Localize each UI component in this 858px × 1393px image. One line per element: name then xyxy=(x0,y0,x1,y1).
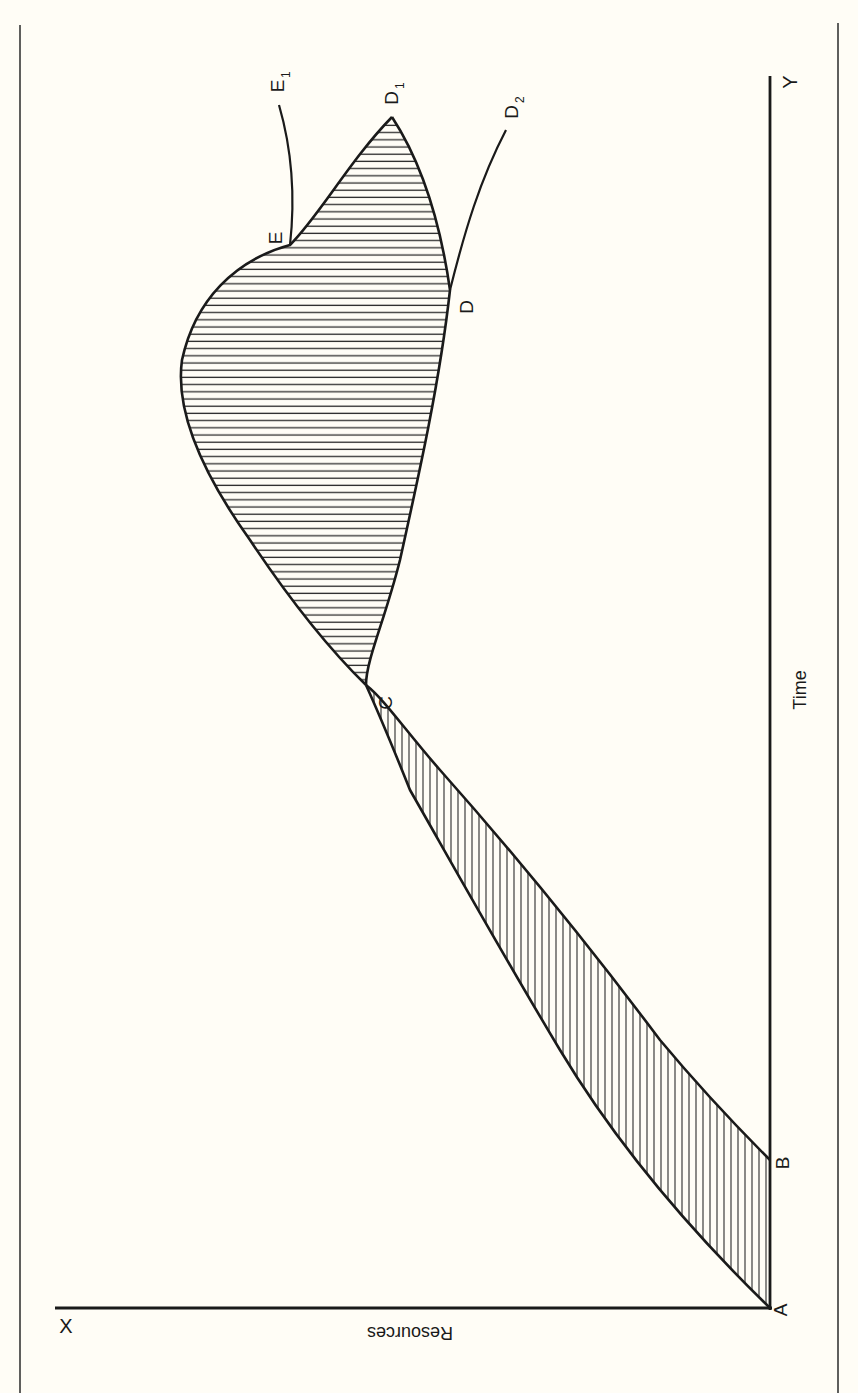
svg-text:E: E xyxy=(267,80,288,93)
svg-text:1: 1 xyxy=(279,71,293,78)
resources-axis-label: Resources xyxy=(367,1323,453,1343)
point-a-label: A xyxy=(770,1303,791,1316)
resource-time-diagram: X Resources Y Time A B C D E D 1 E 1 D 2 xyxy=(0,0,858,1393)
svg-text:D: D xyxy=(501,105,522,119)
point-b-label: B xyxy=(772,1157,793,1170)
svg-text:1: 1 xyxy=(393,82,407,89)
point-d1-label: D 1 xyxy=(381,82,407,105)
svg-text:2: 2 xyxy=(513,96,527,103)
point-e1-label: E 1 xyxy=(267,71,293,92)
x-axis-end-label: X xyxy=(59,1315,72,1337)
region-abc-hatched xyxy=(366,685,770,1308)
point-c-label: C xyxy=(375,696,396,710)
curve-b-to-c xyxy=(366,685,770,1160)
branch-d-to-d2 xyxy=(450,130,506,290)
point-d-label: D xyxy=(456,300,477,314)
branch-e-to-e1 xyxy=(279,105,292,245)
point-d2-label: D 2 xyxy=(501,96,527,119)
time-axis-end-label: Y xyxy=(779,75,801,88)
svg-text:D: D xyxy=(381,91,402,105)
point-e-label: E xyxy=(265,232,286,245)
region-lobe-hatched xyxy=(181,117,450,685)
time-axis-label: Time xyxy=(790,670,810,709)
